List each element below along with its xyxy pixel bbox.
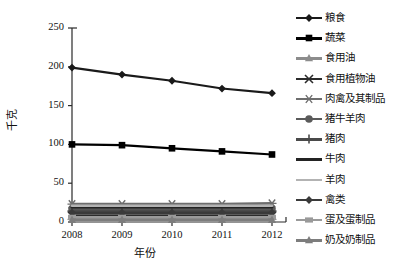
legend-key-tri-icon (296, 51, 322, 65)
legend-item-0[interactable]: 粮食 (296, 8, 406, 28)
series-0 (68, 64, 276, 97)
legend-marker-icon (303, 52, 316, 65)
y-tick-label: 150 (0, 100, 64, 110)
legend-marker-icon (303, 213, 316, 226)
legend-key-none-icon (296, 173, 322, 187)
legend-label: 禽类 (325, 194, 345, 206)
y-tick-label: 0 (0, 216, 64, 226)
x-tick-label: 2011 (200, 229, 244, 240)
legend-key-square-icon (296, 31, 322, 45)
legend-item-10[interactable]: 蛋及蛋制品 (296, 210, 406, 230)
legend-label: 奶及奶制品 (325, 234, 375, 246)
legend-item-8[interactable]: 羊肉 (296, 170, 406, 190)
legend-item-1[interactable]: 蔬菜 (296, 28, 406, 48)
legend-label: 猪肉 (325, 133, 345, 145)
y-tick-label: 200 (0, 61, 64, 71)
plot-area: 千克 年份 050100150200250 200820092010201120… (0, 0, 290, 265)
y-tick-label: 50 (0, 177, 64, 187)
legend-marker-icon (303, 12, 316, 25)
legend-item-3[interactable]: 食用植物油 (296, 69, 406, 89)
chart-legend: 粮食蔬菜食用油食用植物油肉禽及其制品猪牛羊肉猪肉牛肉羊肉禽类蛋及蛋制品奶及奶制品 (296, 8, 406, 250)
legend-marker-icon (303, 32, 316, 45)
legend-label: 食用油 (325, 52, 355, 64)
x-tick-label: 2010 (150, 229, 194, 240)
legend-marker-icon (303, 92, 316, 105)
legend-label: 蛋及蛋制品 (325, 214, 375, 226)
legend-key-diamond-icon (296, 11, 322, 25)
legend-item-11[interactable]: 奶及奶制品 (296, 230, 406, 250)
legend-item-4[interactable]: 肉禽及其制品 (296, 89, 406, 109)
y-tick-label: 250 (0, 22, 64, 32)
legend-item-9[interactable]: 禽类 (296, 190, 406, 210)
legend-marker-icon (303, 193, 316, 206)
legend-item-7[interactable]: 牛肉 (296, 149, 406, 169)
legend-label: 粮食 (325, 12, 345, 24)
legend-item-2[interactable]: 食用油 (296, 48, 406, 68)
legend-marker-icon (303, 113, 316, 126)
legend-key-rect-icon (296, 213, 322, 227)
legend-item-5[interactable]: 猪牛羊肉 (296, 109, 406, 129)
x-tick-label: 2008 (50, 229, 94, 240)
legend-marker-icon (303, 72, 316, 85)
legend-key-circle-icon (296, 112, 322, 126)
series-1 (69, 141, 276, 158)
legend-key-x-icon (296, 72, 322, 86)
x-axis-title: 年份 (0, 244, 290, 260)
legend-item-6[interactable]: 猪肉 (296, 129, 406, 149)
legend-key-plus-icon (296, 132, 322, 146)
chart-root: 千克 年份 050100150200250 200820092010201120… (0, 0, 406, 265)
x-tick-label: 2009 (100, 229, 144, 240)
legend-label: 食用植物油 (325, 73, 375, 85)
legend-label: 肉禽及其制品 (325, 93, 385, 105)
legend-marker-icon (303, 234, 316, 247)
legend-label: 牛肉 (325, 153, 345, 165)
legend-key-tri-icon (296, 233, 322, 247)
legend-label: 羊肉 (325, 174, 345, 186)
legend-key-none-icon (296, 152, 322, 166)
legend-key-star-icon (296, 92, 322, 106)
legend-label: 蔬菜 (325, 32, 345, 44)
x-tick-label: 2012 (250, 229, 294, 240)
legend-marker-icon (303, 133, 316, 146)
y-tick-label: 100 (0, 138, 64, 148)
legend-label: 猪牛羊肉 (325, 113, 365, 125)
legend-key-diamond-icon (296, 193, 322, 207)
